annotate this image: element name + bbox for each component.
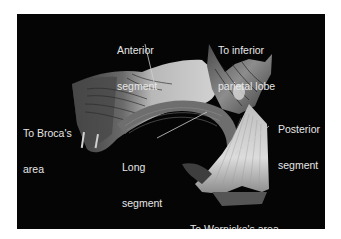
label-posterior-segment: Posterior segment: [278, 99, 320, 195]
label-line: To inferior: [218, 44, 275, 56]
label-wernickes-area: To Wernicke's area: [190, 199, 279, 229]
label-line: segment: [117, 80, 157, 92]
label-line: Posterior: [278, 123, 320, 135]
label-line: To Wernicke's area: [190, 223, 279, 229]
leader-long: [157, 112, 207, 138]
label-inferior-parietal-lobe: To inferior parietal lobe: [218, 20, 275, 116]
label-line: parietal lobe: [218, 80, 275, 92]
label-brocas-area: To Broca's area: [23, 103, 72, 199]
diagram-panel: Anterior segment To inferior parietal lo…: [17, 14, 325, 229]
label-line: area: [23, 163, 72, 175]
label-line: segment: [122, 197, 162, 209]
label-line: Anterior: [117, 44, 157, 56]
label-anterior-segment: Anterior segment: [117, 20, 157, 116]
label-line: segment: [278, 159, 320, 171]
label-long-segment: Long segment: [122, 137, 162, 229]
label-line: Long: [122, 161, 162, 173]
label-line: To Broca's: [23, 127, 72, 139]
